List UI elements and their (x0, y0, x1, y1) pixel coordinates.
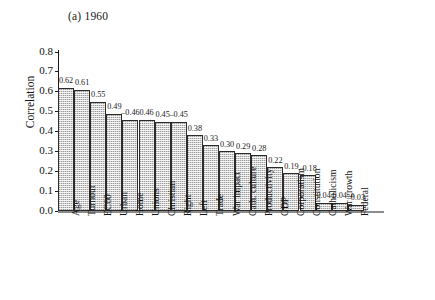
x-axis-category-text: GDP (279, 197, 290, 216)
y-axis-tick-label: 0.4 (39, 124, 53, 136)
x-axis-category-text: Constitution (311, 169, 322, 216)
x-axis-category-text: War growth (343, 171, 354, 216)
x-axis-category-text: Right (182, 195, 193, 216)
bar (58, 88, 74, 211)
bar-value-label: 0.62 (59, 77, 73, 85)
y-axis-tick-label: 0.0 (39, 204, 53, 216)
x-axis-category-text: War impact (231, 172, 242, 216)
y-axis-tick-label: 0.7 (39, 64, 53, 76)
bar-column: 0.38 (187, 52, 203, 211)
bar-value-label: 0.28 (252, 145, 266, 153)
bar-column: 0.33 (203, 52, 219, 211)
y-axis-tick-label: 0.1 (39, 184, 53, 196)
y-axis-tick-label: 0.6 (39, 84, 53, 96)
bar-value-label: 0.49 (107, 103, 121, 111)
x-axis-category-text: Unions (150, 188, 161, 216)
panel-title: (a) 1960 (68, 10, 108, 22)
bar-value-label: 0.55 (91, 91, 105, 99)
y-axis-title: Correlation (24, 47, 36, 157)
bar-column: 0.49 (106, 52, 122, 211)
x-axis-category-text: Catholicism (327, 170, 338, 216)
bar-value-label: –0.46 (121, 109, 139, 117)
bar-value-label: –0.45 (170, 111, 188, 119)
x-axis-category-text: Home (134, 193, 145, 216)
x-axis-category-text: Trade (214, 194, 225, 216)
bar-value-label: 0.46 (139, 109, 153, 117)
y-axis-tick-label: 0.5 (39, 104, 53, 116)
x-axis-category-labels: AgeTurnoutEC60UrbanHomeUnionsChristianRi… (58, 214, 370, 298)
bar-value-label: 0.30 (220, 141, 234, 149)
y-axis-tick-label: 0.8 (39, 45, 53, 57)
x-axis-category-text: Cath. culture (247, 166, 258, 216)
x-axis-category-text: Productivity (263, 169, 274, 216)
x-axis-category-text: Urban (118, 192, 129, 216)
bar-value-label: 0.22 (268, 157, 282, 165)
x-axis-category-text: Left (198, 200, 209, 216)
x-axis-category-text: Turnout (86, 185, 97, 216)
bar-value-label: 0.38 (188, 125, 202, 133)
y-axis-tick-label: 0.3 (39, 144, 53, 156)
x-axis-category-text: Christian (166, 181, 177, 216)
x-axis-category-text: Federal (359, 187, 370, 216)
correlation-bar-chart-figure: (a) 1960 Correlation 0.00.10.20.30.40.50… (0, 0, 435, 300)
bar-value-label: 0.29 (236, 143, 250, 151)
x-axis-category-text: Age (70, 200, 81, 216)
y-axis-tick-label: 0.2 (39, 164, 53, 176)
x-axis-category-text: EC60 (102, 194, 113, 216)
bar-series: 0.620.610.550.49–0.460.460.45–0.450.380.… (58, 52, 370, 211)
bar-column: –0.46 (122, 52, 138, 211)
bar-value-label: 0.45 (155, 111, 169, 119)
bar-column: 0.62 (58, 52, 74, 211)
bar-value-label: 0.33 (204, 135, 218, 143)
bar-value-label: 0.61 (75, 79, 89, 87)
x-axis-category-text: Corporatism (295, 168, 306, 216)
